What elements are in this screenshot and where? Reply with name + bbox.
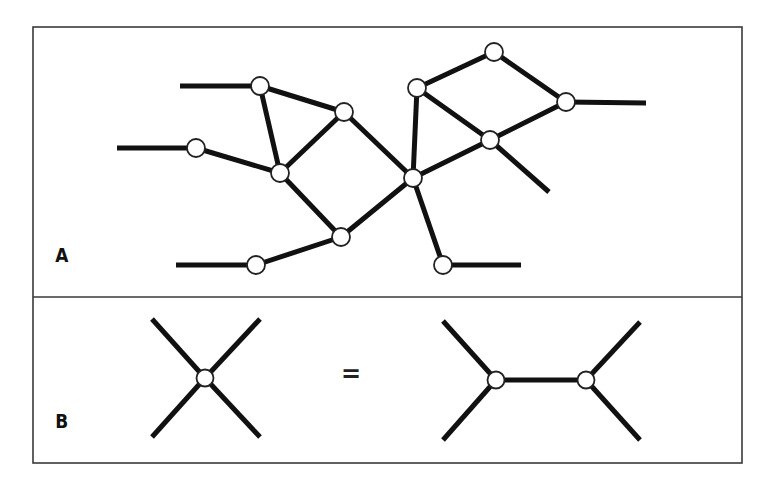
graph-edge [494, 52, 566, 102]
graph-node [187, 139, 205, 157]
graph-edge [413, 140, 490, 178]
vertex-edge [152, 319, 205, 378]
vertex-edge [586, 380, 640, 440]
graph-node [408, 79, 426, 97]
panel-b-edges [152, 319, 640, 440]
graph-node [404, 169, 422, 187]
vertex-edge [586, 322, 640, 380]
vertex-edge [152, 378, 205, 437]
graph-edge [417, 88, 490, 140]
panel-a-nodes [187, 43, 575, 274]
vertex-edge [205, 319, 260, 378]
graph-edge [490, 102, 566, 140]
panel-label-b: B [55, 411, 68, 431]
graph-edge [417, 52, 494, 88]
vertex-edge [443, 321, 496, 380]
graph-edge [341, 178, 413, 237]
graph-edge [256, 237, 341, 265]
panel-label-a: A [55, 245, 68, 265]
graph-node [247, 256, 265, 274]
graph-node [434, 256, 452, 274]
graph-node [271, 164, 289, 182]
figure-frame [33, 27, 742, 463]
graph-node [251, 77, 269, 95]
vertex-node [197, 370, 214, 387]
graph-edge [344, 112, 413, 178]
graph-node [335, 103, 353, 121]
graph-edge [280, 112, 344, 173]
graph-edge [260, 86, 344, 112]
vertex-edge [205, 378, 260, 437]
graph-edge [413, 88, 417, 178]
graph-node [485, 43, 503, 61]
equals-sign: = [341, 362, 361, 386]
graph-edge [280, 173, 341, 237]
graph-edge [566, 102, 646, 103]
graph-figure [0, 0, 775, 487]
graph-node [557, 93, 575, 111]
graph-node [481, 131, 499, 149]
graph-edge [260, 86, 280, 173]
vertex-node [488, 372, 505, 389]
panel-a-edges [117, 52, 646, 265]
graph-node [332, 228, 350, 246]
vertex-node [578, 372, 595, 389]
graph-edge [196, 148, 280, 173]
vertex-edge [443, 380, 496, 440]
graph-edge [413, 178, 443, 265]
graph-edge [490, 140, 549, 192]
